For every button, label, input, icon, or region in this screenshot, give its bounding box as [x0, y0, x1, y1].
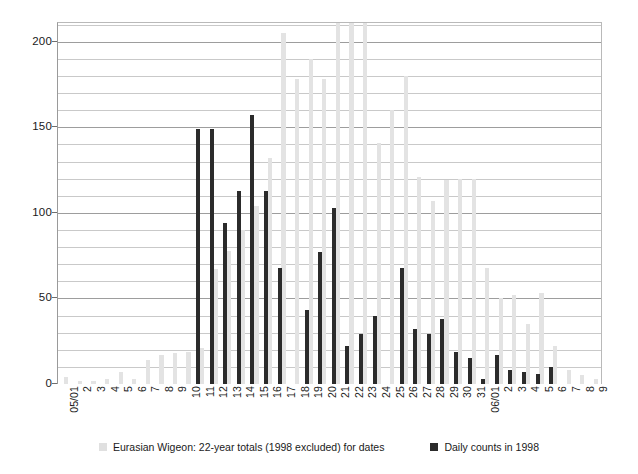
x-axis: 05/0123456789101112131415161718192021222… — [57, 386, 600, 444]
bar-totals — [526, 324, 530, 384]
bar-daily — [305, 310, 309, 384]
bar-totals — [146, 360, 150, 384]
bar-totals — [159, 355, 163, 384]
bar-totals — [132, 379, 136, 384]
bar-daily — [413, 329, 417, 384]
x-axis-tick-label: 27 — [421, 386, 433, 398]
x-axis-tick-label: 12 — [217, 386, 229, 398]
bar-daily — [359, 334, 363, 384]
x-axis-tick-label: 6 — [556, 386, 568, 392]
y-axis-tick-label: 100 — [0, 206, 52, 218]
bar-totals — [417, 177, 421, 384]
bar-daily — [468, 358, 472, 384]
x-axis-tick-label: 28 — [434, 386, 446, 398]
x-axis-tick-label: 21 — [339, 386, 351, 398]
bar-daily — [427, 334, 431, 384]
x-axis-tick-label: 3 — [516, 386, 528, 392]
bar-totals — [499, 298, 503, 384]
x-axis-tick-label: 4 — [109, 386, 121, 392]
bar-daily — [400, 268, 404, 384]
x-axis-tick-label: 7 — [149, 386, 161, 392]
bar-totals — [567, 370, 571, 384]
bar-totals — [64, 377, 68, 384]
x-axis-tick-label: 18 — [299, 386, 311, 398]
bar-totals — [472, 179, 476, 384]
bar-totals — [105, 379, 109, 384]
legend-item[interactable]: Eurasian Wigeon: 22-year totals (1998 ex… — [99, 441, 384, 453]
legend-label: Daily counts in 1998 — [444, 441, 539, 453]
plot-area — [57, 22, 602, 384]
x-axis-tick-label: 25 — [394, 386, 406, 398]
bar-totals — [295, 79, 299, 384]
x-axis-tick-label: 19 — [312, 386, 324, 398]
x-axis-tick-label: 20 — [326, 386, 338, 398]
bar-totals — [78, 381, 82, 384]
legend-item[interactable]: Daily counts in 1998 — [430, 441, 539, 453]
bar-totals — [214, 269, 218, 384]
bar-totals — [227, 251, 231, 384]
bar-totals — [458, 179, 462, 384]
bar-daily — [454, 352, 458, 385]
x-axis-tick-label: 8 — [163, 386, 175, 392]
x-axis-tick-label: 3 — [95, 386, 107, 392]
bar-daily — [278, 268, 282, 384]
bar-daily — [522, 372, 526, 384]
bar-totals — [349, 23, 353, 384]
x-axis-tick-label: 13 — [231, 386, 243, 398]
bar-totals — [377, 143, 381, 384]
bar-daily — [345, 346, 349, 384]
bar-totals — [580, 375, 584, 384]
x-axis-tick-label: 26 — [407, 386, 419, 398]
y-axis-tick-label: 50 — [0, 291, 52, 303]
bar-totals — [173, 353, 177, 384]
x-axis-tick-label: 10 — [190, 386, 202, 398]
bar-daily — [549, 367, 553, 384]
bar-daily — [373, 316, 377, 384]
x-axis-tick-label: 16 — [271, 386, 283, 398]
x-axis-tick-label: 8 — [584, 386, 596, 392]
bars-layer — [58, 23, 601, 384]
x-axis-tick-label: 23 — [366, 386, 378, 398]
bar-totals — [186, 352, 190, 385]
x-axis-tick-label: 30 — [461, 386, 473, 398]
y-axis: 050100150200 — [0, 0, 52, 474]
bar-totals — [241, 230, 245, 384]
legend-swatch-icon — [430, 443, 438, 451]
x-axis-tick-label: 2 — [502, 386, 514, 392]
bar-totals — [539, 293, 543, 384]
x-axis-tick-label: 5 — [122, 386, 134, 392]
x-axis-tick-label: 5 — [543, 386, 555, 392]
x-axis-tick-label: 7 — [570, 386, 582, 392]
x-axis-tick-label: 17 — [285, 386, 297, 398]
bar-totals — [363, 23, 367, 384]
legend-label: Eurasian Wigeon: 22-year totals (1998 ex… — [113, 441, 384, 453]
bar-daily — [481, 379, 485, 384]
x-axis-tick-label: 05/01 — [68, 386, 80, 413]
bar-daily — [223, 223, 227, 384]
bar-daily — [196, 129, 200, 384]
bar-totals — [336, 23, 340, 384]
bar-totals — [512, 295, 516, 384]
bar-daily — [250, 115, 254, 384]
bar-totals — [322, 79, 326, 384]
bar-daily — [440, 319, 444, 384]
bar-totals — [431, 201, 435, 384]
x-axis-tick-label: 9 — [597, 386, 609, 392]
x-axis-tick-label: 29 — [448, 386, 460, 398]
bar-totals — [390, 110, 394, 384]
bar-totals — [309, 59, 313, 384]
x-axis-tick-label: 6 — [136, 386, 148, 392]
x-axis-tick-label: 31 — [475, 386, 487, 398]
bar-totals — [404, 76, 408, 384]
x-axis-tick-label: 2 — [81, 386, 93, 392]
bar-totals — [254, 206, 258, 384]
bar-totals — [119, 372, 123, 384]
bar-totals — [91, 381, 95, 384]
bar-daily — [264, 191, 268, 384]
bar-totals — [553, 346, 557, 384]
bar-totals — [444, 180, 448, 384]
bar-daily — [210, 129, 214, 384]
x-axis-tick-label: 11 — [204, 386, 216, 397]
bar-totals — [200, 348, 204, 384]
y-axis-tick-label: 200 — [0, 35, 52, 47]
